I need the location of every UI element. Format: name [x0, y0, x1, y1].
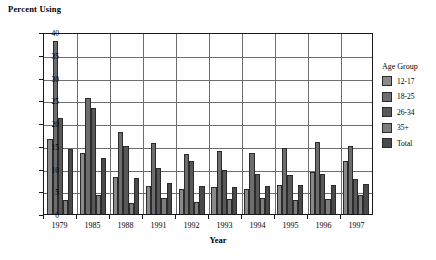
x-axis-tick-mark — [241, 215, 242, 219]
x-axis-tick-mark — [109, 215, 110, 219]
y-axis-tick-mark — [39, 170, 43, 171]
bar-group — [306, 34, 339, 214]
legend-item[interactable]: 18-25 — [382, 92, 436, 102]
bar — [232, 187, 237, 214]
bar — [134, 178, 139, 214]
bar-group — [241, 34, 274, 214]
legend-label: 18-25 — [397, 92, 415, 101]
legend-item[interactable]: 12-17 — [382, 76, 436, 86]
bar-groups — [44, 34, 372, 214]
legend-label: Total — [397, 139, 412, 148]
x-axis-tick-mark — [307, 215, 308, 219]
plot-area — [43, 33, 373, 215]
legend-item[interactable]: Total — [382, 138, 436, 148]
y-axis-tick-mark — [39, 124, 43, 125]
legend-swatch — [382, 107, 392, 117]
x-axis-tick-mark — [43, 215, 44, 219]
bar — [363, 184, 368, 214]
y-axis-tick-mark — [39, 56, 43, 57]
x-axis-tick-mark — [76, 215, 77, 219]
bar — [101, 158, 106, 214]
y-axis-tick-mark — [39, 79, 43, 80]
bar — [68, 149, 73, 214]
x-axis-tick-mark — [208, 215, 209, 219]
legend-item[interactable]: 26-34 — [382, 107, 436, 117]
legend-label: 35+ — [397, 123, 409, 132]
legend-title: Age Group — [382, 62, 436, 71]
chart-container: Percent Using Year Age Group 12-1718-252… — [0, 0, 436, 260]
bar — [167, 183, 172, 214]
legend: Age Group 12-1718-2526-3435+Total — [382, 62, 436, 154]
legend-item[interactable]: 35+ — [382, 123, 436, 133]
x-axis-tick-label: 1997 — [337, 221, 377, 230]
bar-group — [175, 34, 208, 214]
bar — [199, 186, 204, 214]
y-axis-tick-mark — [39, 33, 43, 34]
x-axis-tick-mark — [142, 215, 143, 219]
legend-label: 12-17 — [397, 77, 415, 86]
x-axis-tick-mark — [340, 215, 341, 219]
bar-group — [77, 34, 110, 214]
legend-swatch — [382, 92, 392, 102]
x-axis-title: Year — [0, 235, 436, 245]
y-axis-tick-mark — [39, 192, 43, 193]
y-axis-tick-mark — [39, 101, 43, 102]
bar-group — [110, 34, 143, 214]
bar-group — [208, 34, 241, 214]
legend-swatch — [382, 123, 392, 133]
y-axis-title: Percent Using — [8, 4, 61, 14]
legend-entries: 12-1718-2526-3435+Total — [382, 76, 436, 148]
legend-label: 26-34 — [397, 108, 415, 117]
bar-group — [142, 34, 175, 214]
x-axis-tick-mark — [175, 215, 176, 219]
bar — [298, 185, 303, 214]
y-axis-tick-mark — [39, 147, 43, 148]
bar-group — [339, 34, 372, 214]
legend-swatch — [382, 138, 392, 148]
bar-group — [274, 34, 307, 214]
bar — [265, 186, 270, 214]
bar — [331, 185, 336, 214]
legend-swatch — [382, 76, 392, 86]
x-axis-tick-mark — [274, 215, 275, 219]
